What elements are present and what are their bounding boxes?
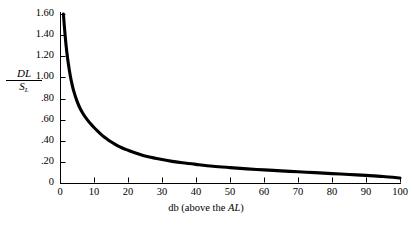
y-axis-tick-label: 1.60 <box>18 7 54 18</box>
y-axis-tick-label: 1.00 <box>18 70 54 81</box>
x-axis-title: db (above the AL) <box>0 202 412 213</box>
data-series-group <box>63 14 400 178</box>
y-axis-tick-label: .60 <box>18 113 54 124</box>
x-axis-tick-label: 100 <box>380 186 412 197</box>
y-axis-tick-label: 1.40 <box>18 28 54 39</box>
x-axis-title-italic: AL <box>228 202 240 213</box>
chart-figure: DL SL 0.20.40.60.801.001.201.401.60 0102… <box>0 0 412 225</box>
x-axis-title-suffix: ) <box>240 202 244 213</box>
y-axis-tick-label: .40 <box>18 134 54 145</box>
x-axis-title-prefix: db (above the <box>168 202 228 213</box>
y-axis-tick-label: 1.20 <box>18 49 54 60</box>
data-series-line <box>63 14 400 178</box>
axis-lines <box>60 12 401 184</box>
x-axis-ticks <box>61 178 401 183</box>
y-axis-tick-label: .20 <box>18 155 54 166</box>
y-axis-tick-label: .80 <box>18 92 54 103</box>
